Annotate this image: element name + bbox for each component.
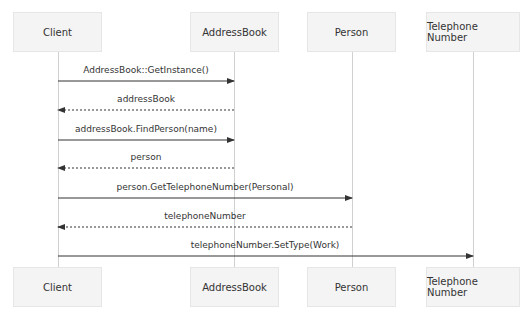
- message-label-7: telephoneNumber.SetType(Work): [191, 240, 340, 250]
- message-label-2: addressBook: [117, 94, 175, 104]
- message-label-4: person: [131, 152, 162, 162]
- message-label-1: AddressBook::GetInstance(): [83, 65, 209, 75]
- message-label-6: telephoneNumber: [164, 211, 245, 221]
- message-label-3: addressBook.FindPerson(name): [75, 124, 217, 134]
- message-label-5: person.GetTelephoneNumber(Personal): [117, 182, 294, 192]
- message-arrows: [0, 0, 532, 317]
